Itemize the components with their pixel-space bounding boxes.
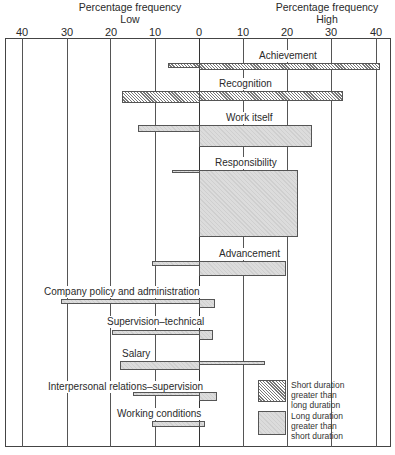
bar-working-conditions-low <box>152 421 200 427</box>
bar-salary-high <box>199 361 265 365</box>
bar-recognition-low <box>122 91 200 103</box>
gridline <box>376 38 377 447</box>
bar-responsibility-low <box>172 170 200 173</box>
factor-label-supervision-technical: Supervision–technical <box>106 316 205 328</box>
factor-label-working-conditions: Working conditions <box>116 408 202 420</box>
bar-achievement-low <box>168 63 200 68</box>
bar-salary-low <box>120 361 200 370</box>
low-axis-subtitle: Low <box>60 13 200 25</box>
tick-high-40: 40 <box>364 26 388 38</box>
bar-work-itself-high <box>199 125 312 147</box>
tick-high-30: 30 <box>319 26 343 38</box>
bar-advancement-high <box>199 261 286 276</box>
high-axis-subtitle: High <box>257 13 395 25</box>
legend-label-long-duration: Long duration greater than short duratio… <box>291 411 343 441</box>
factor-label-company-policy: Company policy and administration <box>43 286 201 298</box>
legend-label-short-duration: Short duration greater than long duratio… <box>291 380 344 410</box>
low-axis-title-text: Percentage frequency <box>60 1 200 13</box>
tick-high-20: 20 <box>275 26 299 38</box>
tick-low-10: 10 <box>143 26 167 38</box>
bar-achievement-high <box>199 63 380 70</box>
tick-low-20: 20 <box>99 26 123 38</box>
factor-label-salary: Salary <box>121 348 151 360</box>
bar-supervision-technical-low <box>112 330 200 335</box>
bar-responsibility-high <box>199 170 298 237</box>
high-axis-title: Percentage frequency High <box>257 1 395 25</box>
bar-company-policy-low <box>61 299 200 304</box>
bar-working-conditions-high <box>199 421 205 427</box>
bar-interpersonal-relations-high <box>199 392 217 401</box>
factor-label-responsibility: Responsibility <box>214 157 278 169</box>
factor-label-work-itself: Work itself <box>225 112 274 124</box>
high-axis-title-text: Percentage frequency <box>257 1 395 13</box>
bar-recognition-high <box>199 91 343 101</box>
low-axis-title: Percentage frequency Low <box>60 1 200 25</box>
legend-swatch-short-duration <box>258 380 286 402</box>
factor-label-advancement: Advancement <box>218 248 281 260</box>
tick-high-10: 10 <box>231 26 255 38</box>
factor-label-achievement: Achievement <box>258 50 318 62</box>
tick-low-40: 40 <box>10 26 34 38</box>
legend-swatch-long-duration <box>258 411 286 435</box>
bar-supervision-technical-high <box>199 330 213 340</box>
factor-label-recognition: Recognition <box>218 78 273 90</box>
tick-low-30: 30 <box>55 26 79 38</box>
tick-zero: 0 <box>187 26 211 38</box>
bar-advancement-low <box>152 261 200 266</box>
bar-interpersonal-relations-low <box>133 392 200 396</box>
gridline <box>22 38 23 447</box>
bar-work-itself-low <box>138 125 200 132</box>
bar-company-policy-high <box>199 299 215 308</box>
